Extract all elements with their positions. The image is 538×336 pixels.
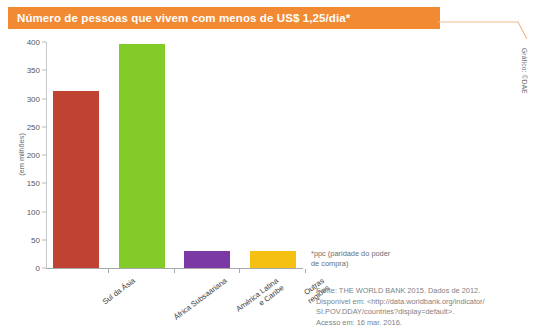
y-tick-mark [42,98,46,99]
bars-layer [0,0,320,268]
chart-plot-area: (em milhões) 050100150200250300350400 Su… [0,0,320,300]
y-tick-mark [42,42,46,43]
x-axis-line [46,268,303,269]
x-axis-label: Sul da Ásia [101,276,137,307]
bar [119,44,165,268]
x-axis-label: América Latina e Caribe [234,276,286,322]
banner-elbow-line [438,17,530,43]
y-tick-mark [42,183,46,184]
x-tick-mark [174,269,175,273]
x-tick-mark [108,269,109,273]
bar [53,91,99,268]
y-tick-mark [42,239,46,240]
source-citation: Fonte: THE WORLD BANK 2015. Dados de 201… [316,286,534,329]
source-line-3: SI.POV.DDAY/countries?display=default>. [316,307,534,318]
x-tick-mark [305,269,306,273]
y-tick-mark [42,268,46,269]
source-line-2: Disponível em: <http://data.worldbank.or… [316,297,534,308]
source-line-4: Acesso em: 16 mar. 2016. [316,318,534,329]
y-tick-mark [42,70,46,71]
chart-credit: Gráfico: ©DAE [521,48,528,138]
y-tick-mark [42,211,46,212]
x-tick-mark [239,269,240,273]
y-tick-mark [42,155,46,156]
footnote-ppc: *ppc (paridade do poder de compra) [311,249,431,269]
bar [250,251,296,269]
source-line-1: Fonte: THE WORLD BANK 2015. Dados de 201… [316,286,534,297]
y-tick-mark [42,126,46,127]
x-axis-label: África Subsaariana [171,276,228,322]
bar [184,251,230,269]
